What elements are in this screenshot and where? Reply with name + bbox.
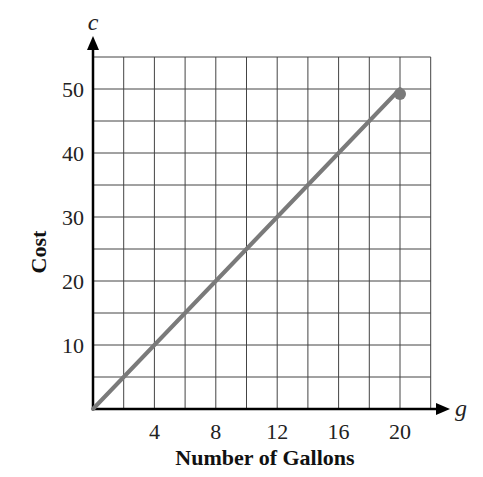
x-axis-arrow-icon xyxy=(436,403,450,415)
y-tick-label: 10 xyxy=(62,333,84,358)
y-tick-label: 50 xyxy=(62,77,84,102)
y-tick-label: 20 xyxy=(62,269,84,294)
x-tick-label: 20 xyxy=(389,419,411,444)
x-tick-label: 8 xyxy=(210,419,221,444)
y-axis-arrow-icon xyxy=(87,36,99,50)
y-axis-title: Cost xyxy=(26,230,51,273)
y-tick-label: 30 xyxy=(62,205,84,230)
x-variable-label: g xyxy=(455,395,467,421)
x-tick-label: 16 xyxy=(328,419,350,444)
y-variable-label: c xyxy=(88,9,99,35)
endpoint-dot xyxy=(394,88,406,100)
chart: 481216201020304050 Cost Number of Gallon… xyxy=(0,0,483,477)
y-tick-label: 40 xyxy=(62,141,84,166)
x-tick-label: 12 xyxy=(266,419,288,444)
x-axis-title: Number of Gallons xyxy=(175,445,355,470)
x-tick-label: 4 xyxy=(149,419,160,444)
